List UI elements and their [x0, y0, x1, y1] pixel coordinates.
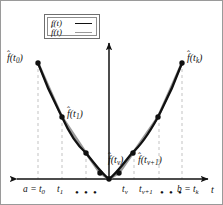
tick-label-a-eq-t0: a = t0 [23, 185, 45, 196]
point-label-f-hat-t0: ̂f(t0) [7, 53, 23, 65]
legend-inner-frame: f(t) ̂f(t) [47, 17, 97, 36]
legend-entry-f-hat: ̂f(t) [51, 28, 93, 37]
f-base-t0: f [7, 52, 10, 63]
tick-tv-sub: v [125, 188, 128, 195]
f-close-tv: ) [120, 154, 123, 165]
legend-f-hat-base: f [51, 27, 54, 37]
node-tv [106, 176, 111, 181]
node-ti [83, 150, 88, 155]
point-label-f-hat-tk: ̂f(tk) [187, 53, 202, 65]
f-sub-tv1: v+1 [147, 159, 159, 167]
tick-b-lead: b = t [177, 184, 196, 194]
legend: f(t) ̂f(t) [44, 14, 100, 39]
node-tj [97, 170, 102, 175]
f-base-tv1: f [138, 154, 141, 165]
legend-f-hat-arg: (t) [54, 27, 63, 37]
tick-ellipsis-left: • • • [75, 187, 98, 198]
tick-label-b-eq-tk: b = tk [177, 185, 199, 196]
x-axis-name: t [211, 185, 214, 195]
tick-tv1-sub: v+1 [142, 188, 153, 195]
node-tk [179, 60, 184, 65]
legend-swatch-f-hat [75, 32, 92, 33]
tick-label-t1: t1 [57, 185, 63, 196]
f-close-t1: ) [79, 108, 82, 119]
f-close-tv1: ) [159, 154, 162, 165]
figure-container: f(t) ̂f(t) ̂f(t0) ̂f(t1) ̂f(tv) ̂f(tv+1)… [0, 0, 223, 205]
tick-a-lead: a = t [23, 184, 42, 194]
legend-label-f-hat: ̂f(t) [51, 28, 73, 37]
f-base-tk: f [187, 52, 190, 63]
tick-t1-sub: 1 [60, 188, 63, 195]
node-tv1 [116, 170, 121, 175]
node-tn [155, 114, 160, 119]
tick-a-sub: 0 [42, 188, 45, 195]
tick-b-sub: k [196, 188, 199, 195]
node-t1 [59, 114, 64, 119]
f-base-tv: f [108, 154, 111, 165]
tick-label-tv: tv [122, 185, 128, 196]
node-t0 [35, 60, 40, 65]
plot-canvas [1, 1, 223, 205]
f-close-t0: ) [19, 52, 22, 63]
node-tm [130, 150, 135, 155]
point-label-f-hat-tv1: ̂f(tv+1) [138, 155, 162, 167]
tick-label-tv1: tv+1 [139, 185, 153, 196]
point-label-f-hat-tv: ̂f(tv) [108, 155, 123, 167]
point-label-f-hat-t1: ̂f(t1) [67, 109, 83, 121]
f-close-tk: ) [199, 52, 202, 63]
f-base-t1: f [67, 108, 70, 119]
legend-swatch-f [75, 23, 92, 24]
